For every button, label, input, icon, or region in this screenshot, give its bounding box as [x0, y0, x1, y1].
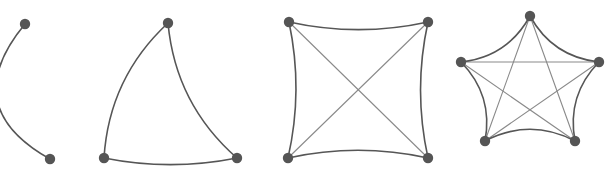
graph-node	[594, 57, 604, 67]
graph-node	[283, 153, 293, 163]
complete-graphs-figure	[0, 0, 606, 179]
graph-node	[232, 153, 242, 163]
figure-background	[0, 0, 606, 179]
graph-node	[570, 136, 580, 146]
graph-node	[480, 136, 490, 146]
graph-node	[20, 19, 30, 29]
graph-node	[525, 11, 535, 21]
graph-node	[284, 17, 294, 27]
graph-node	[163, 18, 173, 28]
graph-node	[423, 153, 433, 163]
graph-node	[456, 57, 466, 67]
graph-node	[45, 154, 55, 164]
graph-node	[423, 17, 433, 27]
graph-node	[99, 153, 109, 163]
